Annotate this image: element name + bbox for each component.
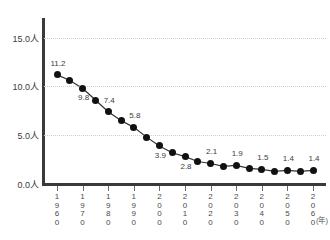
data-point-marker: [92, 97, 99, 104]
x-axis-tick-label: 2030: [229, 193, 243, 227]
data-point-marker: [271, 168, 278, 175]
x-axis-tick: [83, 186, 84, 191]
data-point-marker: [143, 134, 150, 141]
x-axis-tick-label: 2040: [255, 193, 269, 227]
plot-area: 11.29.87.45.83.92.82.11.91.51.41.4: [44, 18, 326, 184]
data-point-marker: [169, 149, 176, 156]
x-axis-tick: [262, 186, 263, 191]
y-axis-tick-label: 10.0人: [0, 80, 39, 93]
gridline: [44, 135, 326, 136]
gridline: [44, 38, 326, 39]
x-axis-tick-label: 2000: [152, 193, 166, 227]
data-point-marker: [284, 167, 291, 174]
data-point-label: 3.9: [155, 151, 166, 160]
data-point-marker: [233, 162, 240, 169]
x-axis-tick: [134, 186, 135, 191]
data-point-label: 2.8: [180, 162, 191, 171]
data-point-label: 9.8: [78, 93, 89, 102]
data-point-label: 1.9: [232, 149, 243, 158]
data-point-label: 11.2: [51, 59, 66, 68]
data-point-label: 2.1: [206, 147, 217, 156]
chart-title-strip: [0, 0, 330, 7]
y-axis-tick-label: 15.0人: [0, 32, 39, 45]
x-axis-tick: [185, 186, 186, 191]
chart-root: 11.29.87.45.83.92.82.11.91.51.41.4 15.0人…: [0, 0, 330, 240]
data-point-marker: [246, 165, 253, 172]
y-axis-tick-label: 5.0人: [0, 129, 39, 142]
x-axis-tick: [287, 186, 288, 191]
x-axis-tick-label: 2020: [204, 193, 218, 227]
data-point-marker: [182, 153, 189, 160]
data-point-label: 5.8: [129, 111, 140, 120]
data-point-marker: [118, 117, 125, 124]
data-point-marker: [220, 163, 227, 170]
data-point-label: 7.4: [104, 96, 115, 105]
data-point-label: 1.4: [283, 154, 294, 163]
x-axis-tick-label: 2050: [280, 193, 294, 227]
x-axis-tick: [57, 186, 58, 191]
gridline: [44, 86, 326, 87]
data-point-label: 1.4: [308, 154, 319, 163]
x-axis-tick: [313, 186, 314, 191]
data-point-marker: [310, 167, 317, 174]
x-axis-tick: [159, 186, 160, 191]
data-point-marker: [54, 71, 61, 78]
x-axis-unit-label: (年): [316, 214, 328, 225]
x-axis-tick-label: 1980: [101, 193, 115, 227]
data-point-marker: [79, 85, 86, 92]
data-point-marker: [105, 108, 112, 115]
data-point-label: 1.5: [257, 153, 268, 162]
x-axis-tick-label: 1960: [50, 193, 64, 227]
x-axis-tick-label: 1970: [76, 193, 90, 227]
x-axis-tick: [108, 186, 109, 191]
x-axis-tick-label: 1990: [127, 193, 141, 227]
x-axis-tick: [211, 186, 212, 191]
x-axis-tick-label: 2010: [178, 193, 192, 227]
data-point-marker: [297, 168, 304, 175]
x-axis-tick: [236, 186, 237, 191]
y-axis-tick-label: 0.0人: [0, 178, 39, 191]
